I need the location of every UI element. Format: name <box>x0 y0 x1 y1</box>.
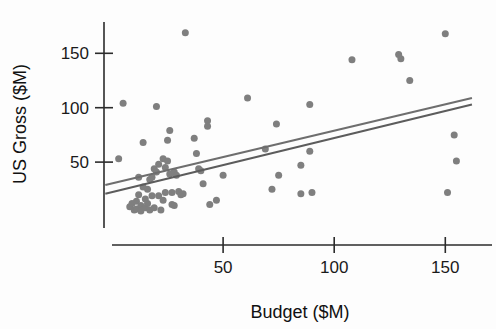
scatter-point <box>213 197 220 204</box>
x-tick-label: 150 <box>431 258 459 277</box>
lower-fit-line <box>105 104 472 193</box>
scatter-point <box>157 206 164 213</box>
scatter-point <box>151 204 158 211</box>
scatter-point <box>275 172 282 179</box>
scatter-point <box>120 100 127 107</box>
x-axis-title: Budget ($M) <box>250 302 349 322</box>
x-axis-ticks: 50100150 <box>214 237 460 277</box>
scatter-point <box>268 186 275 193</box>
scatter-point <box>220 172 227 179</box>
scatter-point <box>140 139 147 146</box>
scatter-point <box>348 56 355 63</box>
scatter-point <box>297 190 304 197</box>
scatter-point <box>200 180 207 187</box>
scatter-point <box>180 190 187 197</box>
scatter-point <box>182 29 189 36</box>
scatter-points-group <box>115 29 460 214</box>
scatter-point <box>144 186 151 193</box>
scatter-point <box>306 148 313 155</box>
scatter-point <box>168 189 175 196</box>
scatter-point <box>191 135 198 142</box>
scatter-point <box>451 131 458 138</box>
scatter-point <box>115 155 122 162</box>
scatter-point <box>164 137 171 144</box>
upper-fit-line <box>105 98 472 185</box>
scatter-plot-figure: 50100150 50100150 Budget ($M) US Gross (… <box>0 0 496 329</box>
scatter-point <box>164 158 171 165</box>
scatter-point <box>453 158 460 165</box>
y-tick-label: 150 <box>61 44 89 63</box>
scatter-point <box>406 77 413 84</box>
scatter-point <box>166 127 173 134</box>
scatter-point <box>206 201 213 208</box>
scatter-point <box>244 94 251 101</box>
y-tick-label: 100 <box>61 99 89 118</box>
x-tick-label: 50 <box>214 258 233 277</box>
scatter-point <box>149 192 156 199</box>
scatter-point <box>297 162 304 169</box>
scatter-point <box>204 123 211 130</box>
scatter-point <box>308 189 315 196</box>
scatter-point <box>193 150 200 157</box>
regression-lines-group <box>105 98 472 194</box>
scatter-point <box>155 161 162 168</box>
plot-canvas: 50100150 50100150 Budget ($M) US Gross (… <box>0 0 496 329</box>
scatter-point <box>444 189 451 196</box>
scatter-point <box>144 200 151 207</box>
scatter-point <box>306 101 313 108</box>
scatter-point <box>442 30 449 37</box>
scatter-point <box>171 202 178 209</box>
scatter-point <box>153 103 160 110</box>
y-axis-ticks: 50100150 <box>61 44 113 172</box>
x-tick-label: 100 <box>320 258 348 277</box>
scatter-point <box>135 191 142 198</box>
scatter-point <box>160 197 167 204</box>
scatter-point <box>273 121 280 128</box>
y-axis-title: US Gross ($M) <box>10 64 30 184</box>
scatter-point <box>397 55 404 62</box>
y-tick-label: 50 <box>70 153 89 172</box>
scatter-point <box>162 189 169 196</box>
